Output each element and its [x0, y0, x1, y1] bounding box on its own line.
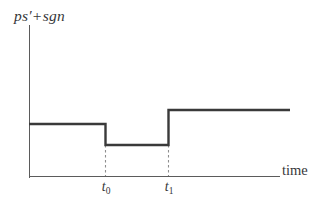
y-axis-label-tail: sgn [43, 7, 65, 24]
x-tick-label-t0: t0 [102, 180, 111, 194]
y-axis-label: ps′+sgn [14, 8, 65, 24]
y-axis-label-main: ps [14, 7, 28, 24]
caption-clipped-text [26, 200, 294, 209]
x-tick-label-t1: t1 [165, 180, 174, 194]
y-axis-label-plus: + [32, 7, 43, 24]
x-axis-label: time [282, 163, 308, 178]
step-function-plot [0, 0, 319, 209]
step-curve-path [29, 110, 290, 145]
x-tick-label-t1-subscript: 1 [169, 186, 174, 196]
x-tick-label-t0-subscript: 0 [106, 186, 111, 196]
figure-container: ps′+sgn time t0 t1 [0, 0, 319, 209]
